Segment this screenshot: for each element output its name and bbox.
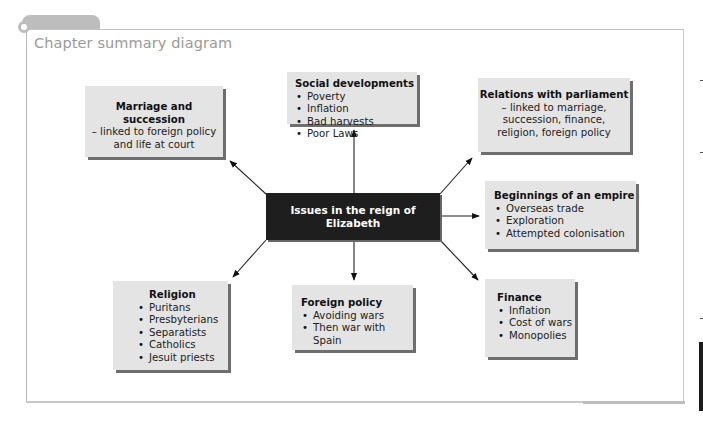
node-line: succession, finance, — [478, 114, 630, 127]
list-item: Inflation — [295, 103, 417, 116]
node-social-developments: Social developments Poverty Inflation Ba… — [287, 72, 417, 124]
list-item: Overseas trade — [494, 203, 636, 216]
arrow-to-marriage — [230, 161, 266, 194]
page-edge-bar — [699, 342, 703, 411]
list-item: Presbyterians — [137, 314, 228, 327]
node-foreign-policy: Foreign policy Avoiding wars Then war wi… — [292, 285, 413, 350]
list-item: Bad harvests — [295, 116, 417, 129]
node-beginnings-of-an-empire: Beginnings of an empire Overseas trade E… — [485, 181, 636, 249]
node-line: – linked to foreign policy — [85, 126, 223, 139]
list-item: Then war with Spain — [301, 322, 413, 347]
node-list: Inflation Cost of wars Monopolies — [497, 305, 575, 343]
arrow-to-religion — [233, 240, 266, 277]
node-relations-with-parliament: Relations with parliament – linked to ma… — [478, 78, 630, 152]
central-label: Issues in the reign of Elizabeth — [286, 204, 420, 230]
list-item: Inflation — [497, 305, 575, 318]
node-title: Social developments — [295, 78, 417, 91]
list-item: Exploration — [494, 215, 636, 228]
list-item: Separatists — [137, 327, 228, 340]
node-list: Overseas trade Exploration Attempted col… — [494, 203, 636, 241]
node-title: Finance — [497, 292, 575, 305]
arrow-to-parliament — [440, 158, 472, 194]
node-religion: Religion Puritans Presbyterians Separati… — [113, 281, 228, 370]
list-item: Puritans — [137, 302, 228, 315]
list-item: Avoiding wars — [301, 310, 413, 323]
list-item: Poor Laws — [295, 128, 417, 141]
node-title: Foreign policy — [301, 297, 413, 310]
list-item: Poverty — [295, 91, 417, 104]
node-title: Marriage and succession — [85, 101, 223, 126]
list-item: Attempted colonisation — [494, 228, 636, 241]
node-finance: Finance Inflation Cost of wars Monopolie… — [485, 279, 575, 357]
node-title: Beginnings of an empire — [494, 190, 636, 203]
node-list: Poverty Inflation Bad harvests Poor Laws — [295, 91, 417, 141]
arrow-to-finance — [440, 240, 478, 280]
node-list: Puritans Presbyterians Separatists Catho… — [137, 302, 228, 365]
list-item: Cost of wars — [497, 317, 575, 330]
node-line: – linked to marriage, — [478, 102, 630, 115]
node-title: Relations with parliament — [478, 89, 630, 102]
node-list: Avoiding wars Then war with Spain — [301, 310, 413, 348]
list-item: Catholics — [137, 339, 228, 352]
list-item: Jesuit priests — [137, 352, 228, 365]
node-line: religion, foreign policy — [478, 127, 630, 140]
node-marriage-and-succession: Marriage and succession – linked to fore… — [85, 86, 223, 157]
node-line: and life at court — [85, 139, 223, 152]
list-item: Monopolies — [497, 330, 575, 343]
central-node: Issues in the reign of Elizabeth — [266, 193, 440, 240]
node-title: Religion — [137, 289, 228, 302]
